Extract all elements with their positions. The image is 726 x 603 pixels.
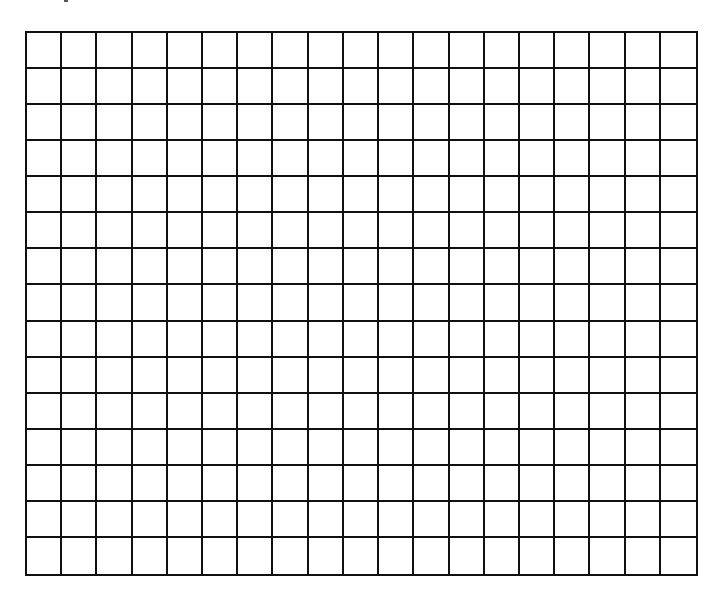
- grid-cell: [344, 322, 379, 358]
- grid-cell: [485, 322, 520, 358]
- grid-cell: [309, 285, 344, 321]
- grid-cell: [133, 285, 168, 321]
- grid-cell: [414, 502, 449, 538]
- grid-cell: [133, 538, 168, 574]
- grid-cell: [520, 285, 555, 321]
- grid-cell: [414, 141, 449, 177]
- grid-cell: [97, 249, 132, 285]
- grid-cell: [273, 358, 308, 394]
- grid-cell: [661, 430, 696, 466]
- grid-cell: [661, 466, 696, 502]
- grid-cell: [626, 358, 661, 394]
- grid-cell: [379, 69, 414, 105]
- grid-cell: [238, 213, 273, 249]
- grid-cell: [133, 322, 168, 358]
- grid-cell: [626, 69, 661, 105]
- grid-cell: [27, 466, 62, 502]
- grid-cell: [379, 358, 414, 394]
- grid-cell: [62, 285, 97, 321]
- grid-cell: [309, 213, 344, 249]
- grid-cell: [309, 358, 344, 394]
- grid-cell: [379, 322, 414, 358]
- scan-speck: [64, 0, 68, 2]
- grid-cell: [203, 538, 238, 574]
- grid-cell: [27, 213, 62, 249]
- grid-cell: [97, 394, 132, 430]
- grid-cell: [520, 177, 555, 213]
- grid-cell: [555, 285, 590, 321]
- grid-cell: [450, 430, 485, 466]
- grid-cell: [62, 358, 97, 394]
- grid-cell: [168, 105, 203, 141]
- grid-cell: [414, 358, 449, 394]
- grid-cell: [450, 502, 485, 538]
- grid-cell: [590, 249, 625, 285]
- grid-cell: [379, 538, 414, 574]
- grid-cell: [414, 394, 449, 430]
- grid-cell: [309, 502, 344, 538]
- grid-cell: [97, 105, 132, 141]
- grid-cell: [168, 249, 203, 285]
- grid-cell: [555, 358, 590, 394]
- grid-cell: [626, 502, 661, 538]
- grid-cell: [450, 33, 485, 69]
- grid-cell: [485, 249, 520, 285]
- grid-cell: [203, 322, 238, 358]
- grid-cell: [344, 394, 379, 430]
- grid-cell: [590, 213, 625, 249]
- grid-cell: [27, 33, 62, 69]
- grid-cell: [27, 430, 62, 466]
- grid-cell: [238, 249, 273, 285]
- grid-cell: [379, 394, 414, 430]
- grid-cell: [450, 249, 485, 285]
- grid-cell: [520, 466, 555, 502]
- grid-cell: [133, 358, 168, 394]
- grid-cell: [168, 141, 203, 177]
- grid-cell: [273, 213, 308, 249]
- grid-cell: [238, 430, 273, 466]
- grid-cell: [62, 394, 97, 430]
- grid-cell: [414, 213, 449, 249]
- grid-cell: [661, 358, 696, 394]
- grid-cell: [62, 322, 97, 358]
- grid-cell: [520, 538, 555, 574]
- grid-cell: [273, 69, 308, 105]
- grid-cell: [626, 33, 661, 69]
- grid-cell: [309, 177, 344, 213]
- grid-cell: [273, 285, 308, 321]
- grid-cell: [661, 285, 696, 321]
- grid-cell: [62, 33, 97, 69]
- grid-cell: [27, 249, 62, 285]
- grid-cell: [555, 177, 590, 213]
- grid-cell: [520, 105, 555, 141]
- grid-cell: [555, 502, 590, 538]
- grid-cell: [238, 33, 273, 69]
- grid-cell: [62, 141, 97, 177]
- grid-cell: [590, 33, 625, 69]
- grid-cell: [626, 430, 661, 466]
- grid-cell: [590, 177, 625, 213]
- grid-cell: [379, 466, 414, 502]
- grid-cell: [133, 69, 168, 105]
- grid-cell: [555, 538, 590, 574]
- grid-cell: [626, 141, 661, 177]
- grid-cell: [590, 358, 625, 394]
- grid-cell: [203, 285, 238, 321]
- grid-cell: [590, 285, 625, 321]
- grid-cell: [97, 213, 132, 249]
- grid-cell: [414, 322, 449, 358]
- grid-cell: [273, 105, 308, 141]
- grid-cell: [485, 394, 520, 430]
- grid-cell: [238, 105, 273, 141]
- grid-cell: [450, 213, 485, 249]
- grid-cell: [450, 322, 485, 358]
- grid-cell: [238, 141, 273, 177]
- grid-cell: [97, 358, 132, 394]
- grid-cell: [450, 105, 485, 141]
- grid-cell: [97, 430, 132, 466]
- grid-cell: [590, 466, 625, 502]
- grid-cell: [379, 249, 414, 285]
- grid-cell: [414, 177, 449, 213]
- grid-cell: [555, 141, 590, 177]
- grid-cell: [450, 285, 485, 321]
